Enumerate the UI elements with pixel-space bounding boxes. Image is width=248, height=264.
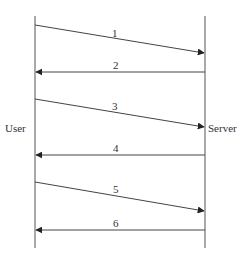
message-6: 6: [36, 217, 205, 230]
message-arrow: [35, 99, 204, 127]
message-5: 5: [35, 182, 204, 211]
message-label: 3: [112, 100, 118, 112]
message-label: 4: [113, 142, 119, 154]
message-label: 1: [112, 27, 118, 39]
actor-user-label: User: [5, 122, 26, 134]
message-2: 2: [36, 59, 205, 72]
message-label: 5: [113, 183, 119, 195]
message-arrow: [35, 25, 204, 53]
message-3: 3: [35, 99, 204, 127]
message-label: 6: [113, 217, 119, 229]
message-4: 4: [36, 142, 205, 155]
actor-server-label: Server: [208, 122, 237, 134]
message-1: 1: [35, 25, 204, 53]
message-label: 2: [113, 59, 119, 71]
message-arrow: [35, 182, 204, 211]
sequence-diagram: User Server 1 2 3 4 5 6: [0, 0, 248, 264]
